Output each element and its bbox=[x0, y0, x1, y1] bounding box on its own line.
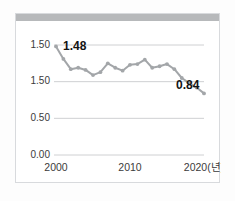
data-point-marker bbox=[143, 58, 147, 62]
y-tick-label-1: 1.50 bbox=[31, 75, 51, 86]
first-value-label: 1.48 bbox=[63, 39, 87, 53]
gridlines bbox=[54, 45, 204, 155]
data-point-marker bbox=[202, 92, 206, 96]
data-point-marker bbox=[76, 66, 80, 70]
chart-card: 1.501.500.500.00 200020102020(년) 1.48 0.… bbox=[15, 13, 220, 183]
header-band bbox=[16, 14, 219, 21]
data-point-marker bbox=[173, 67, 177, 71]
data-point-marker bbox=[158, 64, 162, 68]
data-point-marker bbox=[136, 62, 140, 66]
y-axis-tick-labels: 1.501.500.500.00 bbox=[31, 39, 51, 160]
data-point-marker bbox=[150, 66, 154, 70]
x-tick-label-2: 2020(년) bbox=[184, 161, 221, 173]
data-point-marker bbox=[69, 67, 73, 71]
y-tick-label-0: 1.50 bbox=[31, 39, 51, 50]
data-point-marker bbox=[113, 66, 117, 70]
data-point-marker bbox=[106, 61, 110, 65]
plot-area: 1.501.500.500.00 200020102020(년) 1.48 0.… bbox=[16, 21, 221, 184]
data-point-marker bbox=[99, 70, 103, 74]
x-tick-label-1: 2010 bbox=[118, 161, 142, 173]
chart-figure: 1.501.500.500.00 200020102020(년) 1.48 0.… bbox=[0, 0, 235, 201]
data-point-marker bbox=[128, 63, 132, 67]
data-point-marker bbox=[84, 68, 88, 72]
data-point-marker bbox=[121, 69, 125, 73]
y-tick-label-3: 0.00 bbox=[31, 149, 51, 160]
data-point-marker bbox=[62, 57, 66, 61]
last-value-label: 0.84 bbox=[176, 78, 200, 92]
x-axis-tick-labels: 200020102020(년) bbox=[44, 161, 221, 173]
data-point-marker bbox=[165, 62, 169, 66]
data-point-marker bbox=[91, 73, 95, 77]
line-chart-svg: 1.501.500.500.00 200020102020(년) 1.48 0.… bbox=[16, 21, 221, 184]
x-tick-label-0: 2000 bbox=[44, 161, 68, 173]
y-tick-label-2: 0.50 bbox=[31, 112, 51, 123]
data-point-marker bbox=[54, 45, 58, 49]
